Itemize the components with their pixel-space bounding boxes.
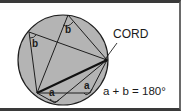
angle-label-a-bottom: a <box>49 87 55 98</box>
angle-label-b-top: b <box>65 24 71 35</box>
diagram-frame: b b a a CORD a + b = 180° <box>0 0 181 111</box>
cord-point <box>104 58 108 62</box>
cord-leader-line <box>106 43 117 58</box>
equation-label: a + b = 180° <box>103 86 166 98</box>
angle-label-b-left: b <box>32 38 38 49</box>
cord-label: CORD <box>113 28 148 40</box>
angle-label-a-right: a <box>84 80 90 91</box>
